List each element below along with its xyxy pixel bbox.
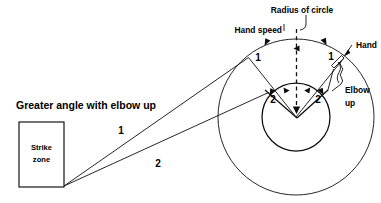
radius-spoke-outer-left	[249, 58, 297, 118]
angle-label-inner-left: 2	[270, 94, 276, 105]
forearm-inner-edge	[328, 69, 334, 91]
radius-of-circle-label: Radius of circle	[271, 5, 334, 15]
strike-zone-label-line1: Strike	[31, 143, 52, 152]
hand-speed-label: Hand speed	[235, 25, 282, 35]
angle-label-outer-right: 1	[328, 51, 334, 62]
elbow-up-label-line1: Elbow	[345, 85, 370, 95]
hand-callout-arrowhead	[344, 49, 350, 56]
radius-callout-leader	[300, 15, 306, 30]
angle-label-outer-left: 1	[255, 52, 261, 63]
ray-label-1: 1	[118, 125, 124, 136]
ray-label-2: 2	[155, 158, 161, 169]
inner-spoke-tick-left	[284, 88, 290, 94]
inner-spoke-tick-right	[304, 88, 310, 94]
strike-zone-label-line2: zone	[33, 155, 50, 164]
angle-label-inner-right: 2	[315, 94, 321, 105]
throwing-mechanics-diagram: 1 1 2 2 1 2 Radius of circle Hand speed …	[0, 0, 381, 203]
hand-label: Hand	[356, 40, 377, 50]
elbow-up-label-line2: up	[345, 98, 355, 108]
diagram-canvas: 1 1 2 2 1 2 Radius of circle Hand speed …	[0, 0, 381, 203]
figure-title: Greater angle with elbow up	[16, 99, 156, 111]
